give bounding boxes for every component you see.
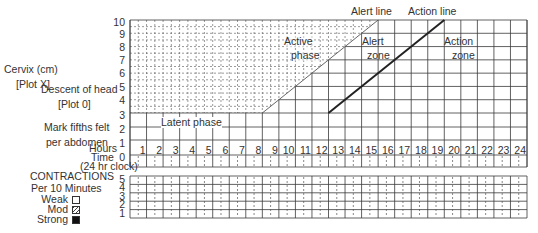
action-zone-label-1: Action xyxy=(444,36,473,47)
alert-zone-label-2: zone xyxy=(367,50,390,61)
active-phase-label-1: Active xyxy=(284,36,313,47)
latent-phase-label: Latent phase xyxy=(161,117,222,128)
action-line-label: Action line xyxy=(408,6,456,17)
action-zone-label-2: zone xyxy=(452,50,475,61)
alert-line-label: Alert line xyxy=(351,6,392,17)
active-phase-label-2: phase xyxy=(291,50,320,61)
alert-zone-label-1: Alert xyxy=(362,36,384,47)
